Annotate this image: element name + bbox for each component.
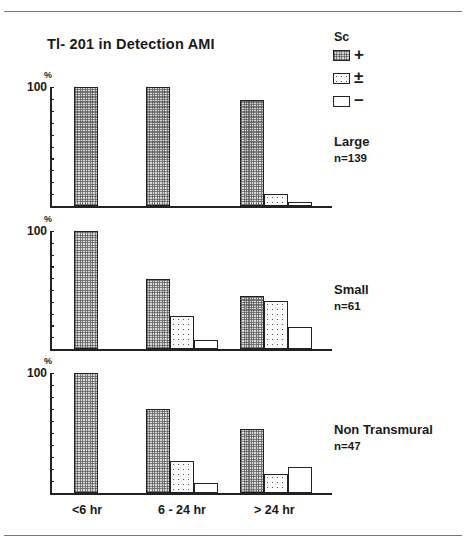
y-tick [51, 409, 54, 410]
bar-negative [288, 327, 312, 349]
y-tick [51, 469, 54, 470]
bar-equivocal [170, 316, 194, 349]
y-tick [51, 373, 54, 374]
bar-positive [74, 87, 98, 206]
panel-label-small: Small [334, 282, 369, 297]
y-tick [51, 278, 54, 279]
y-unit-label: % [44, 70, 52, 80]
y-tick [51, 123, 54, 124]
y-tick [51, 111, 54, 112]
y-tick [51, 445, 54, 446]
panel-label-non-transmural: Non Transmural [334, 422, 433, 437]
y-tick [51, 194, 54, 195]
y-tick [51, 231, 54, 232]
bar-equivocal [264, 474, 288, 493]
y-unit-label: % [44, 214, 52, 224]
y-tick [51, 170, 54, 171]
bar-negative [288, 202, 312, 206]
legend-symbol-positive: + [354, 48, 364, 62]
x-axis [50, 493, 332, 495]
y-tick [51, 147, 54, 148]
legend-swatch-equivocal [333, 73, 350, 84]
y-tick [51, 397, 54, 398]
bar-positive [240, 296, 264, 349]
y-tick [51, 421, 54, 422]
y-tick [51, 243, 54, 244]
panel-n-small: n=61 [334, 300, 361, 312]
legend-swatch-positive [333, 50, 350, 61]
bottom-rule [4, 535, 462, 536]
y-tick [51, 266, 54, 267]
chart-title: Tl- 201 in Detection AMI [47, 36, 215, 52]
x-axis [50, 206, 332, 208]
bar-equivocal [264, 194, 288, 206]
bar-equivocal [264, 301, 288, 349]
y-tick [51, 99, 54, 100]
legend-symbol-negative: − [354, 94, 364, 108]
bar-positive [240, 100, 264, 206]
x-label-gt24: > 24 hr [254, 503, 295, 517]
legend-symbol-equivocal: ± [354, 71, 363, 85]
y-tick [51, 182, 54, 183]
bar-positive [146, 87, 170, 206]
legend-item-equivocal: ± [333, 71, 363, 85]
bar-negative [194, 483, 218, 493]
y-tick [51, 158, 54, 159]
bar-negative [194, 340, 218, 349]
x-label-6-24: 6 - 24 hr [158, 503, 206, 517]
y-tick [51, 290, 54, 291]
y-tick [51, 255, 54, 256]
bar-equivocal [170, 461, 194, 493]
y-tick [51, 135, 54, 136]
y-max-label: 100 [27, 224, 47, 238]
bar-positive [146, 279, 170, 349]
legend-item-positive: + [333, 48, 364, 62]
y-tick [51, 87, 54, 88]
y-tick [51, 433, 54, 434]
y-tick [51, 302, 54, 303]
panel-label-large: Large [334, 134, 369, 149]
legend-swatch-negative [333, 96, 350, 107]
top-rule [4, 11, 462, 12]
bar-positive [240, 429, 264, 493]
bar-positive [74, 231, 98, 349]
legend-item-negative: − [333, 94, 364, 108]
bar-positive [74, 373, 98, 493]
y-tick [51, 481, 54, 482]
y-tick [51, 337, 54, 338]
x-label-lt6: <6 hr [72, 503, 102, 517]
legend-title: Sc [334, 30, 349, 44]
panel-n-large: n=139 [334, 152, 367, 164]
bar-positive [146, 409, 170, 493]
y-unit-label: % [44, 356, 52, 366]
y-max-label: 100 [27, 366, 47, 380]
y-tick [51, 385, 54, 386]
panel-n-non-transmural: n=47 [334, 440, 361, 452]
y-max-label: 100 [27, 80, 47, 94]
bar-negative [288, 467, 312, 493]
x-axis [50, 349, 332, 351]
y-tick [51, 457, 54, 458]
y-tick [51, 314, 54, 315]
y-tick [51, 325, 54, 326]
